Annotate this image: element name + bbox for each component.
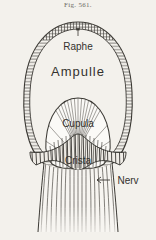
anatomical-illustration: Raphe Ampulle Cupula Crista Nerv — [0, 0, 156, 240]
label-nerve: Nerv — [117, 175, 138, 186]
label-ampulla: Ampulle — [51, 64, 105, 79]
label-raphe: Raphe — [63, 41, 93, 52]
label-cupula: Cupula — [62, 118, 94, 129]
figure-root: Fig. 561. — [0, 0, 156, 240]
label-crista: Crista — [65, 155, 92, 166]
nerve-stalk — [38, 160, 118, 236]
